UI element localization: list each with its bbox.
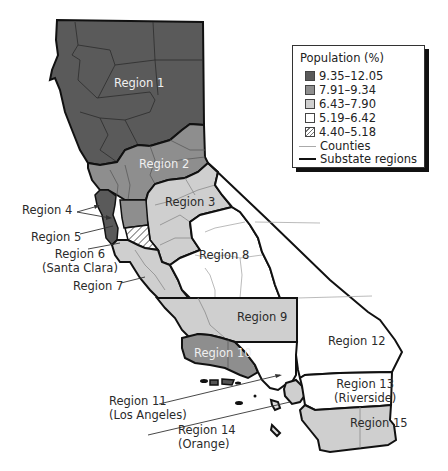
region-14-label: Region 14 (Orange) bbox=[178, 423, 236, 451]
legend-item-5: 4.40–5.18 bbox=[305, 125, 376, 139]
region-15-label: Region 15 bbox=[350, 416, 408, 430]
region-11-name: Region 11 bbox=[109, 394, 187, 408]
region-6-subname: (Santa Clara) bbox=[42, 261, 118, 275]
legend-item-label: 4.40–5.18 bbox=[319, 125, 376, 139]
legend-item-label: 7.91–9.34 bbox=[319, 83, 376, 97]
legend-item-2: 7.91–9.34 bbox=[305, 83, 376, 97]
legend-item-label: 9.35–12.05 bbox=[319, 69, 383, 83]
legend-substate-label: Substate regions bbox=[320, 152, 417, 166]
region-2-label: Region 2 bbox=[139, 157, 189, 171]
swatch-dark bbox=[305, 85, 315, 95]
region-13-label: Region 13 (Riverside) bbox=[334, 377, 396, 405]
legend-item-label: 5.19–6.42 bbox=[319, 111, 376, 125]
region-4-label: Region 4 bbox=[22, 203, 72, 217]
region-8-label: Region 8 bbox=[199, 248, 249, 262]
region-11-label: Region 11 (Los Angeles) bbox=[109, 394, 187, 422]
swatch-white bbox=[305, 113, 315, 123]
region-13-subname: (Riverside) bbox=[334, 391, 396, 405]
region-1-label: Region 1 bbox=[114, 76, 164, 90]
region-5-area bbox=[120, 200, 148, 228]
swatch-hatched bbox=[305, 127, 315, 137]
legend-substate: Substate regions bbox=[305, 152, 417, 166]
region-3-label: Region 3 bbox=[165, 195, 215, 209]
region-7-label: Region 7 bbox=[73, 279, 123, 293]
region-6-label: Region 6 (Santa Clara) bbox=[42, 247, 118, 275]
region-12-label: Region 12 bbox=[328, 334, 386, 348]
legend-counties-label: Counties bbox=[320, 139, 370, 153]
region-line-icon bbox=[299, 158, 316, 160]
legend: Population (%) 9.35–12.05 7.91–9.34 6.43… bbox=[292, 45, 425, 168]
legend-item-4: 5.19–6.42 bbox=[305, 111, 376, 125]
region-14-name: Region 14 bbox=[178, 423, 236, 437]
legend-item-3: 6.43–7.90 bbox=[305, 97, 376, 111]
region-6-name: Region 6 bbox=[42, 247, 118, 261]
region-9-label: Region 9 bbox=[237, 310, 287, 324]
swatch-light bbox=[305, 99, 315, 109]
region-10-label: Region 10 bbox=[194, 346, 252, 360]
county-line-icon bbox=[299, 146, 316, 147]
legend-item-label: 6.43–7.90 bbox=[319, 97, 376, 111]
region-5-label: Region 5 bbox=[31, 230, 81, 244]
region-11-subname: (Los Angeles) bbox=[109, 408, 187, 422]
region-13-name: Region 13 bbox=[334, 377, 396, 391]
region-14-subname: (Orange) bbox=[178, 437, 236, 451]
legend-title: Population (%) bbox=[300, 51, 384, 65]
swatch-darkest bbox=[305, 71, 315, 81]
legend-item-1: 9.35–12.05 bbox=[305, 69, 383, 83]
legend-counties: Counties bbox=[305, 139, 370, 153]
